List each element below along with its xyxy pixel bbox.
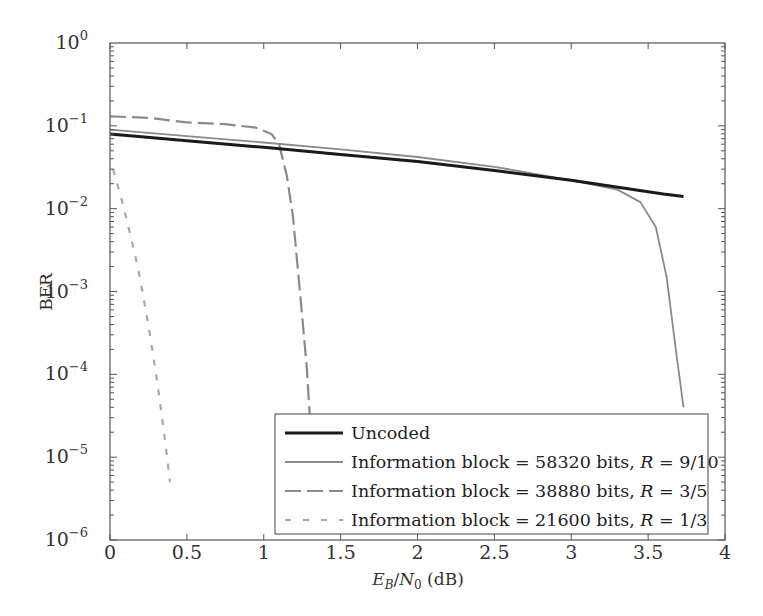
x-tick-labels: 00.511.522.533.54 <box>104 541 731 563</box>
legend-label: Information block = 21600 bits, R = 1/3 <box>351 510 707 530</box>
series-line-1 <box>110 130 684 408</box>
ber-chart: 00.511.522.533.54 10010−110−210−310−410−… <box>0 0 763 616</box>
x-tick-label: 3.5 <box>633 541 663 563</box>
series-line-3 <box>113 169 170 482</box>
x-tick-label: 1 <box>258 541 270 563</box>
y-tick-label: 10−4 <box>45 359 88 384</box>
y-tick-label: 10−2 <box>45 194 88 219</box>
series-line-0 <box>110 134 684 197</box>
x-tick-label: 3 <box>565 541 577 563</box>
y-tick-label: 10−1 <box>45 111 88 136</box>
x-tick-label: 1.5 <box>326 541 356 563</box>
series-line-2 <box>110 116 310 417</box>
legend: UncodedInformation block = 58320 bits, R… <box>275 414 719 534</box>
y-tick-label: 100 <box>56 28 88 53</box>
x-tick-label: 4 <box>719 541 731 563</box>
y-tick-label: 10−6 <box>45 525 88 550</box>
x-tick-label: 0 <box>104 541 116 563</box>
x-axis-label: EB/N0 (dB) <box>371 569 464 592</box>
legend-label: Information block = 38880 bits, R = 3/5 <box>351 481 707 501</box>
legend-label: Information block = 58320 bits, R = 9/10 <box>351 452 719 472</box>
y-axis-label: BER <box>36 272 56 311</box>
x-tick-label: 2.5 <box>479 541 509 563</box>
legend-label: Uncoded <box>351 423 430 443</box>
x-tick-label: 2 <box>411 541 423 563</box>
y-tick-label: 10−5 <box>45 442 88 467</box>
x-tick-label: 0.5 <box>172 541 202 563</box>
